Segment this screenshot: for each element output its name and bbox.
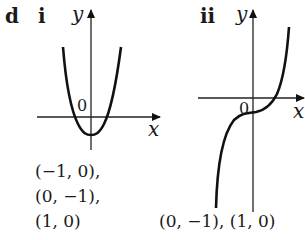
graph-i [37, 10, 160, 150]
graph-i-y-label: y [72, 2, 83, 26]
graph-i-origin-label: 0 [77, 96, 87, 115]
graph-i-label: i [38, 4, 46, 28]
answer-line: (−1, 0), [35, 159, 100, 184]
part-label: d [5, 4, 19, 28]
graph-i-curve [63, 47, 121, 135]
answer-line: (0, −1), (1, 0) [159, 209, 275, 234]
answer-line: (1, 0) [35, 209, 100, 234]
graph-i-x-label: x [148, 117, 159, 141]
graph-ii-x-label: x [293, 99, 304, 123]
graph-ii-answer: (0, −1), (1, 0) [159, 209, 275, 234]
graph-ii-y-label: y [236, 2, 247, 26]
answer-line: (0, −1), [35, 184, 100, 209]
graph-ii [198, 10, 304, 212]
graph-ii-label: ii [200, 4, 215, 28]
graph-i-answer: (−1, 0), (0, −1), (1, 0) [35, 159, 100, 234]
graph-ii-origin-label: 0 [239, 99, 249, 118]
